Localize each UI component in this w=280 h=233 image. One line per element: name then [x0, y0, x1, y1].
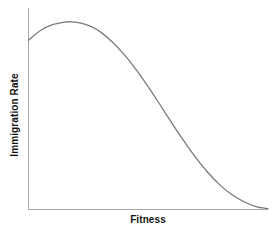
chart-container: Immigration Rate Fitness — [0, 0, 280, 233]
x-axis-label: Fitness — [28, 215, 268, 225]
axes-group — [28, 8, 268, 210]
immigration-rate-curve — [29, 22, 269, 209]
x-axis-label-text: Fitness — [130, 214, 166, 225]
chart-plot-area — [0, 0, 280, 233]
y-axis-label-text: Immigration Rate — [10, 73, 20, 156]
data-series-group — [29, 22, 269, 209]
y-axis-label: Immigration Rate — [0, 0, 30, 233]
